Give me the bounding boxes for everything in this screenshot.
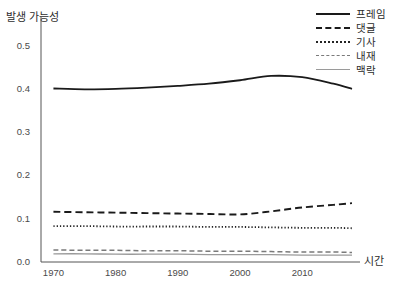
series-line-내재 <box>53 250 352 253</box>
legend-item-맥락[interactable]: 맥락 <box>316 62 402 76</box>
chart-figure: 발생 가능성 시간 0.50.40.30.20.10.0 19701980199… <box>0 0 402 288</box>
legend-item-내재[interactable]: 내재 <box>316 48 402 62</box>
legend-item-label: 맥락 <box>350 62 376 77</box>
legend-swatch-icon <box>316 35 350 47</box>
legend-item-label: 내재 <box>350 48 376 63</box>
legend-swatch-icon <box>316 21 350 33</box>
legend-swatch-icon <box>316 7 350 19</box>
chart-series-group <box>53 76 352 255</box>
legend-item-프레임[interactable]: 프레임 <box>316 6 402 20</box>
legend-item-label: 프레임 <box>350 6 386 21</box>
legend-item-label: 댓글 <box>350 20 376 35</box>
legend-swatch-icon <box>316 63 350 75</box>
series-line-댓글 <box>53 203 352 214</box>
legend-item-기사[interactable]: 기사 <box>316 34 402 48</box>
chart-axes <box>41 16 360 262</box>
series-line-기사 <box>53 226 352 228</box>
legend-swatch-icon <box>316 49 350 61</box>
chart-legend: 프레임댓글기사내재맥락 <box>316 6 402 76</box>
series-line-맥락 <box>53 254 352 255</box>
legend-item-댓글[interactable]: 댓글 <box>316 20 402 34</box>
series-line-프레임 <box>53 76 352 90</box>
legend-item-label: 기사 <box>350 34 376 49</box>
